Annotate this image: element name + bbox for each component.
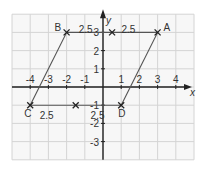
y-tick-label: 2 [93,46,99,57]
x-tick-label: -4 [26,74,35,85]
x-axis-label: x [189,87,196,98]
x-tick-label: 4 [173,74,179,85]
segment-length-label: 2.5 [122,24,136,35]
y-tick-label: 1 [93,64,99,75]
x-tick-label: -1 [80,74,89,85]
x-tick-label: 2 [137,74,143,85]
point-label-b: B [55,22,62,33]
x-tick-label: 1 [118,74,124,85]
y-tick-label: -3 [90,137,99,148]
point-label-d: D [118,108,125,119]
segment-length-label: 2.5 [91,110,105,121]
x-tick-label: -2 [62,74,71,85]
point-label-c: C [24,108,31,119]
coordinate-grid-diagram: xy -4-3-2-11234321-1-2-3 ABCD2.52.52.52.… [0,0,210,170]
segment-length-label: 2.5 [40,110,54,121]
x-tick-label: 3 [155,74,161,85]
y-axis-label: y [105,15,112,26]
segment-length-label: 2.5 [79,24,93,35]
point-label-a: A [164,22,171,33]
